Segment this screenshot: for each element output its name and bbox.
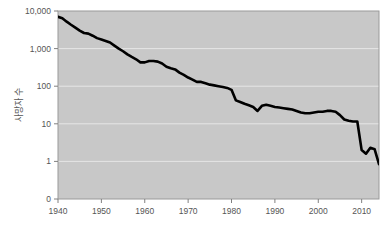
x-tick-label: 1980: [222, 206, 241, 216]
chart-container: 10,0001,0001001010 194019501960197019801…: [0, 0, 390, 233]
y-tick-label: 100: [37, 81, 51, 91]
y-tick-label: 0: [46, 194, 51, 204]
y-tick-label: 1,000: [30, 44, 52, 54]
x-tick-label: 1990: [265, 206, 284, 216]
y-tick-label: 1: [46, 156, 51, 166]
y-axis-title: 사망자 수: [14, 88, 24, 123]
y-axis-title-group: 사망자 수: [14, 88, 24, 123]
x-tick-label: 1950: [92, 206, 111, 216]
line-chart: 10,0001,0001001010 194019501960197019801…: [0, 0, 390, 233]
x-tick-label: 1970: [179, 206, 198, 216]
y-tick-label: 10,000: [25, 6, 51, 16]
y-tick-label: 10: [42, 119, 52, 129]
x-tick-label: 1940: [49, 206, 68, 216]
plot-area-background: [58, 11, 379, 199]
x-tick-label: 2000: [309, 206, 328, 216]
x-tick-label: 1960: [135, 206, 154, 216]
x-tick-label: 2010: [352, 206, 371, 216]
